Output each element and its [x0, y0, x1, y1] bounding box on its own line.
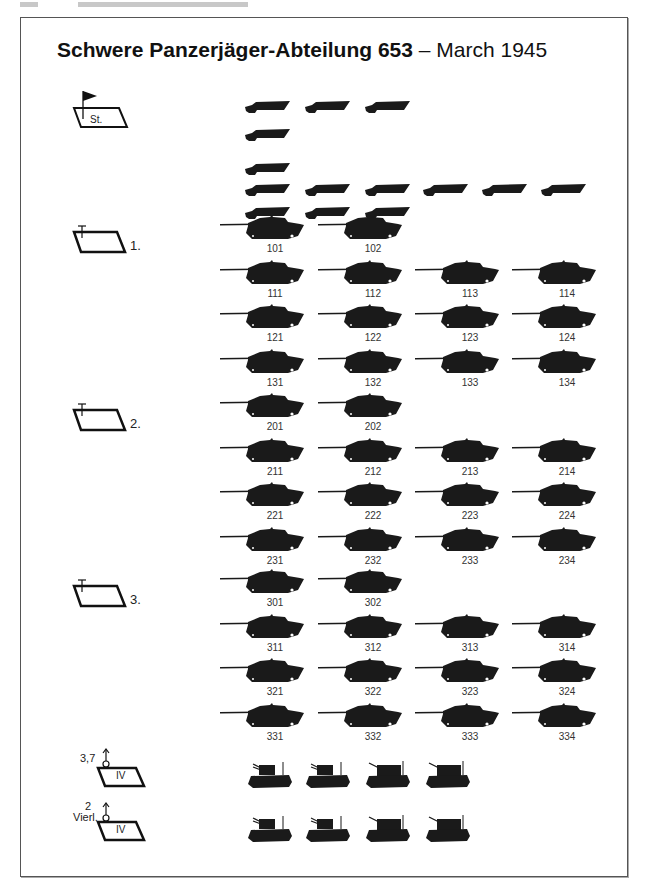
vehicle-number: 221: [230, 510, 320, 521]
vehicle-number: 113: [425, 288, 515, 299]
vehicle-number: 111: [230, 288, 320, 299]
flakpanzer-mobelwagen-icon: [363, 760, 413, 794]
company-1-symbol: [72, 224, 128, 256]
jagdpanther-icon: [316, 524, 404, 558]
halftrack-icon: [303, 98, 351, 118]
jagdpanther-icon: [316, 301, 404, 335]
flak-1-symbol-label: IV: [116, 770, 125, 781]
halftrack-icon: [243, 181, 291, 201]
vehicle-number: 223: [425, 510, 515, 521]
jagdpanther-icon: [218, 566, 306, 600]
page-title: Schwere Panzerjäger-Abteilung 653 – Marc…: [57, 38, 547, 62]
vehicle-number: 323: [425, 686, 515, 697]
halftrack-icon: [303, 181, 351, 201]
jagdpanther-icon: [413, 700, 501, 734]
flakpanzer-wirbelwind-icon: [245, 760, 295, 794]
flakpanzer-mobelwagen-icon: [423, 760, 473, 794]
company-2-label: 2.: [130, 416, 141, 431]
jagdpanther-icon: [413, 301, 501, 335]
jagdpanther-icon: [510, 346, 598, 380]
vehicle-number: 322: [328, 686, 418, 697]
vehicle-number: 302: [328, 597, 418, 608]
vehicle-number: 214: [522, 466, 612, 477]
page-header-illegible: [18, 2, 248, 8]
vehicle-number: 213: [425, 466, 515, 477]
vehicle-number: 324: [522, 686, 612, 697]
vehicle-number: 222: [328, 510, 418, 521]
vehicle-number: 211: [230, 466, 320, 477]
vehicle-number: 123: [425, 332, 515, 343]
jagdpanther-icon: [316, 479, 404, 513]
vehicle-number: 311: [230, 642, 320, 653]
vehicle-number: 332: [328, 731, 418, 742]
vehicle-number: 112: [328, 288, 418, 299]
jagdpanther-icon: [510, 301, 598, 335]
jagdpanther-icon: [510, 655, 598, 689]
staff-symbol-label: St.: [90, 114, 102, 125]
halftrack-icon: [480, 181, 528, 201]
vehicle-number: 114: [522, 288, 612, 299]
jagdpanther-icon: [218, 212, 306, 246]
staff-unit-symbol: [70, 85, 130, 133]
flakpanzer-wirbelwind-icon: [303, 760, 353, 794]
vehicle-number: 201: [230, 421, 320, 432]
vehicle-number: 331: [230, 731, 320, 742]
jagdpanther-icon: [218, 346, 306, 380]
flak-2-symbol: [92, 800, 152, 846]
title-date: – March 1945: [413, 38, 547, 61]
jagdpanther-icon: [316, 566, 404, 600]
jagdpanther-icon: [316, 655, 404, 689]
halftrack-icon: [243, 160, 291, 180]
jagdpanther-icon: [316, 212, 404, 246]
vehicle-number: 232: [328, 555, 418, 566]
jagdpanther-icon: [510, 700, 598, 734]
jagdpanther-icon: [218, 435, 306, 469]
jagdpanther-icon: [413, 611, 501, 645]
halftrack-icon: [243, 98, 291, 118]
arrow-up-icon: [103, 803, 109, 821]
jagdpanther-icon: [413, 655, 501, 689]
vehicle-number: 312: [328, 642, 418, 653]
flak-2-symbol-label: IV: [116, 824, 125, 835]
jagdpanther-icon: [413, 257, 501, 291]
flak-1-symbol: [92, 746, 152, 792]
flakpanzer-wirbelwind-icon: [303, 814, 353, 848]
jagdpanther-icon: [218, 301, 306, 335]
jagdpanther-icon: [316, 611, 404, 645]
vehicle-number: 122: [328, 332, 418, 343]
vehicle-number: 314: [522, 642, 612, 653]
vehicle-number: 212: [328, 466, 418, 477]
jagdpanther-icon: [510, 611, 598, 645]
vehicle-number: 131: [230, 377, 320, 388]
arrow-up-icon: [103, 749, 109, 767]
jagdpanther-icon: [316, 700, 404, 734]
halftrack-icon: [539, 181, 587, 201]
vehicle-number: 101: [230, 243, 320, 254]
jagdpanther-icon: [316, 435, 404, 469]
vehicle-number: 301: [230, 597, 320, 608]
vehicle-number: 133: [425, 377, 515, 388]
vehicle-number: 224: [522, 510, 612, 521]
jagdpanther-icon: [413, 435, 501, 469]
flakpanzer-mobelwagen-icon: [423, 814, 473, 848]
vehicle-number: 134: [522, 377, 612, 388]
jagdpanther-icon: [413, 346, 501, 380]
halftrack-icon: [243, 126, 291, 146]
jagdpanther-icon: [510, 435, 598, 469]
company-3-label: 3.: [130, 592, 141, 607]
vehicle-number: 202: [328, 421, 418, 432]
jagdpanther-icon: [510, 257, 598, 291]
flakpanzer-wirbelwind-icon: [245, 814, 295, 848]
company-1-label: 1.: [130, 238, 141, 253]
jagdpanther-icon: [218, 655, 306, 689]
vehicle-number: 234: [522, 555, 612, 566]
vehicle-number: 102: [328, 243, 418, 254]
vehicle-number: 121: [230, 332, 320, 343]
vehicle-number: 313: [425, 642, 515, 653]
vehicle-number: 132: [328, 377, 418, 388]
jagdpanther-icon: [316, 257, 404, 291]
title-unit: Schwere Panzerjäger-Abteilung 653: [57, 38, 413, 61]
vehicle-number: 333: [425, 731, 515, 742]
jagdpanther-icon: [510, 524, 598, 558]
jagdpanther-icon: [218, 611, 306, 645]
